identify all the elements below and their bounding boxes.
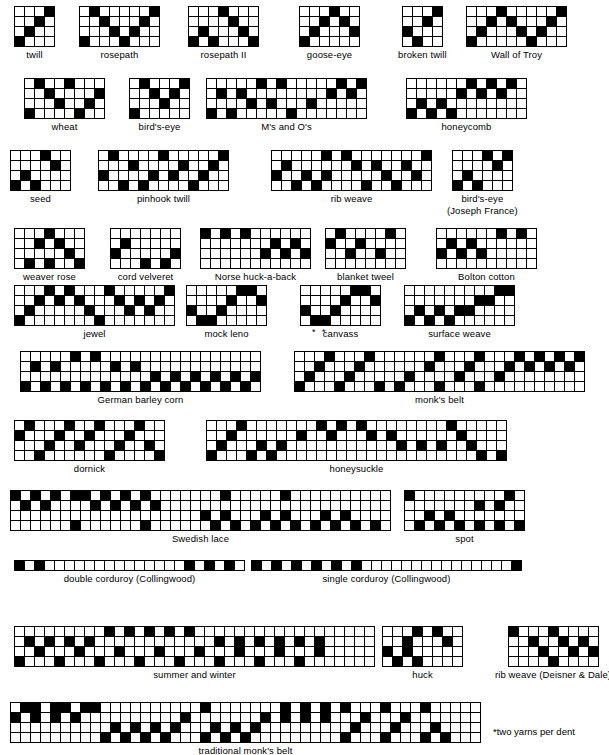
draft-cell-empty <box>557 27 567 37</box>
draft-cell-empty <box>101 723 111 733</box>
draft-row <box>130 99 190 109</box>
draft-cell-empty <box>477 109 487 119</box>
draft-row <box>25 109 105 119</box>
draft-cell-filled <box>465 362 475 372</box>
draft-cell-empty <box>555 382 565 392</box>
draft-cell-filled <box>111 723 121 733</box>
draft-cell-empty <box>175 647 185 657</box>
pattern-label: M's and O's <box>261 121 312 133</box>
draft-cell-filled <box>272 561 282 571</box>
draft-cell-empty <box>217 421 227 431</box>
draft-cell-empty <box>65 259 75 269</box>
draft-grid <box>200 228 311 269</box>
draft-cell-empty <box>287 421 297 431</box>
draft-cell-empty <box>205 647 215 657</box>
draft-cell-filled <box>427 109 437 119</box>
draft-cell-filled <box>267 99 277 109</box>
draft-cell-empty <box>125 647 135 657</box>
draft-cell-filled <box>125 627 135 637</box>
draft-cell-empty <box>519 627 529 637</box>
draft-cell-filled <box>545 362 555 372</box>
draft-cell-empty <box>371 306 381 316</box>
pattern-blanket-tweel: blanket tweel <box>325 228 406 283</box>
draft-row <box>15 657 375 667</box>
draft-cell-empty <box>211 362 221 372</box>
draft-cell-empty <box>65 89 75 99</box>
draft-cell-empty <box>105 421 115 431</box>
draft-cell-empty <box>140 99 150 109</box>
pattern-pinhook-twill: pinhook twill <box>98 150 229 205</box>
draft-cell-empty <box>475 511 485 521</box>
draft-cell-filled <box>447 421 457 431</box>
draft-cell-empty <box>15 637 25 647</box>
draft-cell-empty <box>105 657 115 667</box>
draft-cell-empty <box>525 382 535 392</box>
draft-cell-empty <box>85 451 95 461</box>
draft-cell-empty <box>51 511 61 521</box>
draft-row <box>437 249 537 259</box>
draft-cell-empty <box>335 637 345 647</box>
draft-cell-empty <box>485 352 495 362</box>
draft-cell-empty <box>65 296 75 306</box>
draft-cell-empty <box>403 37 413 47</box>
draft-cell-empty <box>31 501 41 511</box>
draft-cell-filled <box>355 362 365 372</box>
draft-cell-empty <box>189 17 199 27</box>
pattern-label: blanket tweel <box>337 271 394 283</box>
draft-cell-empty <box>21 161 31 171</box>
draft-cell-empty <box>351 501 361 511</box>
draft-cell-filled <box>352 561 362 571</box>
draft-row <box>111 239 181 249</box>
pattern-seed: seed <box>10 150 71 205</box>
draft-cell-empty <box>101 501 111 511</box>
draft-cell-empty <box>31 723 41 733</box>
draft-cell-filled <box>351 286 361 296</box>
draft-row <box>11 723 481 733</box>
draft-cell-empty <box>365 372 375 382</box>
draft-cell-empty <box>25 89 35 99</box>
draft-row <box>383 647 463 657</box>
draft-cell-filled <box>447 239 457 249</box>
draft-cell-filled <box>207 109 217 119</box>
draft-cell-empty <box>161 372 171 382</box>
draft-cell-empty <box>35 306 45 316</box>
draft-cell-filled <box>51 491 61 501</box>
draft-cell-empty <box>505 316 515 326</box>
draft-cell-filled <box>345 372 355 382</box>
draft-cell-empty <box>346 239 356 249</box>
draft-cell-filled <box>209 161 219 171</box>
draft-cell-filled <box>105 451 115 461</box>
draft-cell-empty <box>287 431 297 441</box>
draft-cell-empty <box>151 491 161 501</box>
draft-cell-empty <box>185 637 195 647</box>
draft-cell-empty <box>247 431 257 441</box>
draft-row <box>15 421 165 431</box>
draft-cell-empty <box>100 37 110 47</box>
draft-cell-empty <box>381 723 391 733</box>
draft-cell-empty <box>330 37 340 47</box>
draft-cell-empty <box>505 372 515 382</box>
draft-row <box>21 362 261 372</box>
draft-cell-empty <box>386 259 396 269</box>
draft-cell-empty <box>335 657 345 667</box>
draft-cell-filled <box>539 647 549 657</box>
draft-cell-empty <box>282 171 292 181</box>
draft-row <box>15 306 175 316</box>
draft-cell-empty <box>417 89 427 99</box>
draft-cell-empty <box>305 637 315 647</box>
draft-cell-empty <box>345 352 355 362</box>
draft-cell-empty <box>105 316 115 326</box>
draft-cell-empty <box>241 239 251 249</box>
draft-cell-empty <box>25 431 35 441</box>
draft-cell-empty <box>45 451 55 461</box>
draft-cell-empty <box>215 647 225 657</box>
draft-row <box>407 89 527 99</box>
draft-cell-filled <box>227 431 237 441</box>
draft-cell-empty <box>51 171 61 181</box>
draft-cell-empty <box>217 99 227 109</box>
draft-cell-empty <box>265 627 275 637</box>
draft-cell-empty <box>11 161 21 171</box>
draft-cell-filled <box>312 181 322 191</box>
draft-cell-empty <box>90 27 100 37</box>
draft-cell-empty <box>477 229 487 239</box>
